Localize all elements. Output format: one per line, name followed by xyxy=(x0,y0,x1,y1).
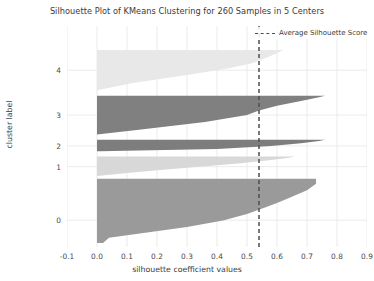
x-tick-1: 0.0 xyxy=(82,252,112,261)
y-tick-4: 4 xyxy=(41,66,61,75)
y-tick-3: 3 xyxy=(41,111,61,120)
x-tick-4: 0.3 xyxy=(172,252,202,261)
x-tick-2: 0.1 xyxy=(112,252,142,261)
x-tick-10: 0.9 xyxy=(352,252,374,261)
x-tick-8: 0.7 xyxy=(292,252,322,261)
y-tick-1: 1 xyxy=(41,162,61,171)
legend: Average Silhouette Score xyxy=(252,27,370,39)
chart-title: Silhouette Plot of KMeans Clustering for… xyxy=(0,6,374,16)
x-tick-6: 0.5 xyxy=(232,252,262,261)
x-axis-title: silhouette coefficient values xyxy=(0,265,374,274)
x-tick-0: -0.1 xyxy=(52,252,82,261)
x-tick-5: 0.4 xyxy=(202,252,232,261)
dashed-line-icon xyxy=(255,33,275,34)
plot-axes xyxy=(67,26,367,247)
silhouette-plot-figure: Silhouette Plot of KMeans Clustering for… xyxy=(0,0,374,281)
x-tick-3: 0.2 xyxy=(142,252,172,261)
y-tick-2: 2 xyxy=(41,141,61,150)
y-tick-0: 0 xyxy=(41,216,61,225)
y-axis-title: cluster label xyxy=(5,101,14,149)
x-tick-9: 0.8 xyxy=(322,252,352,261)
plot-canvas xyxy=(67,26,367,247)
x-tick-7: 0.6 xyxy=(262,252,292,261)
legend-label-average-silhouette: Average Silhouette Score xyxy=(279,29,367,37)
